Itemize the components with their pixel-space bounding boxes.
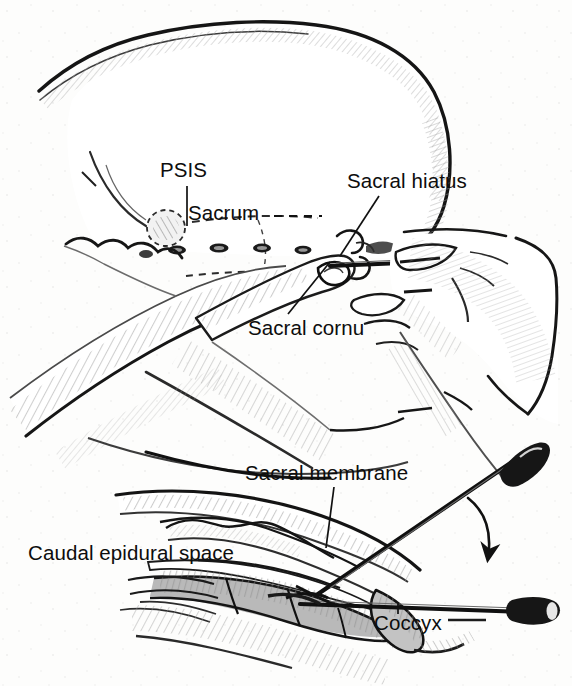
label-psis: PSIS <box>160 160 207 181</box>
label-sacral-hiatus: Sacral hiatus <box>347 171 467 192</box>
illustration-canvas <box>0 0 572 686</box>
caudal-epidural-block-figure: PSIS Sacrum Sacral hiatus Sacral cornu S… <box>0 0 572 686</box>
label-caudal-epidural-space: Caudal epidural space <box>28 543 234 564</box>
psis-shading <box>153 216 179 240</box>
needle-flat-hub-bore <box>547 602 558 620</box>
finger-crease-1 <box>404 290 432 292</box>
label-sacral-cornu: Sacral cornu <box>248 318 364 339</box>
label-coccyx: Coccyx <box>374 613 442 634</box>
label-sacrum: Sacrum <box>188 203 259 224</box>
label-sacral-membrane: Sacral membrane <box>245 463 408 484</box>
